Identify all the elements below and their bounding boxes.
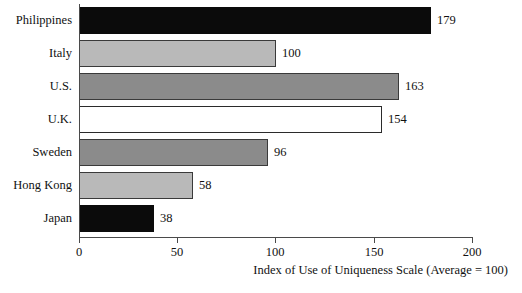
x-tick-label-50: 50 (157, 245, 197, 260)
bar-hong-kong (79, 172, 193, 199)
category-label-sweden: Sweden (0, 136, 72, 169)
bar-value-italy: 100 (282, 40, 301, 67)
bar-philippines (79, 7, 431, 34)
x-axis-line (79, 237, 473, 238)
category-label-japan: Japan (0, 202, 72, 235)
bar-value-japan: 38 (160, 205, 173, 232)
x-tick-150 (374, 238, 375, 243)
bar-chart: Philippines 179 Italy 100 U.S. 163 U.K. … (0, 0, 522, 293)
bar-italy (79, 40, 276, 67)
y-axis-line (79, 4, 80, 238)
bar-sweden (79, 139, 268, 166)
x-tick-100 (275, 238, 276, 243)
category-label-hong-kong: Hong Kong (0, 169, 72, 202)
x-tick-50 (177, 238, 178, 243)
bar-japan (79, 205, 154, 232)
x-tick-label-100: 100 (255, 245, 295, 260)
category-label-philippines: Philippines (0, 4, 72, 37)
category-label-us: U.S. (0, 70, 72, 103)
bar-value-sweden: 96 (274, 139, 287, 166)
bar-uk (79, 106, 382, 133)
bar-value-us: 163 (405, 73, 424, 100)
category-label-italy: Italy (0, 37, 72, 70)
bar-value-uk: 154 (388, 106, 407, 133)
x-tick-0 (79, 238, 80, 243)
x-axis-title: Index of Use of Uniqueness Scale (Averag… (0, 263, 508, 278)
bar-value-hong-kong: 58 (199, 172, 212, 199)
x-tick-label-150: 150 (354, 245, 394, 260)
x-tick-label-200: 200 (452, 245, 492, 260)
category-label-uk: U.K. (0, 103, 72, 136)
x-tick-200 (472, 238, 473, 243)
bar-us (79, 73, 399, 100)
bar-value-philippines: 179 (437, 7, 456, 34)
x-tick-label-0: 0 (59, 245, 99, 260)
